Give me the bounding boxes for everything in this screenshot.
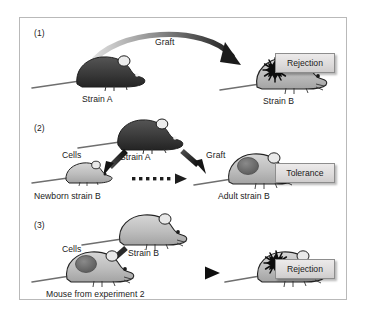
panel-2-donor-label: Strain A — [120, 152, 151, 162]
panel-1-donor-label: Strain A — [82, 94, 113, 104]
panel-1: (1) — [20, 18, 348, 115]
small-light-mouse-icon — [32, 161, 112, 186]
panel-2-newborn-label: Newborn strain B — [34, 191, 101, 201]
panel-3-result-badge[interactable]: Rejection — [275, 259, 335, 279]
dark-mouse-icon — [78, 119, 183, 154]
panel-1-result-badge[interactable]: Rejection — [275, 53, 335, 73]
diagonal-graft-arrow-icon — [182, 151, 206, 174]
figure-frame: (1) — [19, 17, 347, 300]
panel-2: (2) — [20, 115, 348, 212]
accepted-graft-patch-icon — [238, 158, 259, 175]
dotted-growth-arrow-icon — [132, 174, 187, 184]
panel-3-graphics — [20, 212, 348, 300]
panel-2-cells-label: Cells — [62, 150, 81, 160]
panel-3-cells-label: Cells — [62, 244, 81, 254]
panel-3-donor-label: Strain B — [128, 248, 159, 258]
panel-1-recipient-label: Strain B — [263, 96, 294, 106]
dark-mouse-icon — [32, 56, 145, 91]
panel-2-adult-label: Adult strain B — [218, 191, 270, 201]
panel-3: (3) — [20, 212, 348, 300]
horizontal-graft-arrow-icon — [164, 267, 220, 280]
light-mouse-icon — [82, 214, 187, 250]
panel-2-result-badge[interactable]: Tolerance — [275, 163, 335, 183]
accepted-graft-patch-icon — [76, 256, 97, 273]
panel-3-recipient-label: Mouse from experiment 2 — [46, 289, 145, 299]
panel-2-graft-label: Graft — [206, 150, 225, 160]
panel-1-graft-label: Graft — [155, 37, 174, 47]
